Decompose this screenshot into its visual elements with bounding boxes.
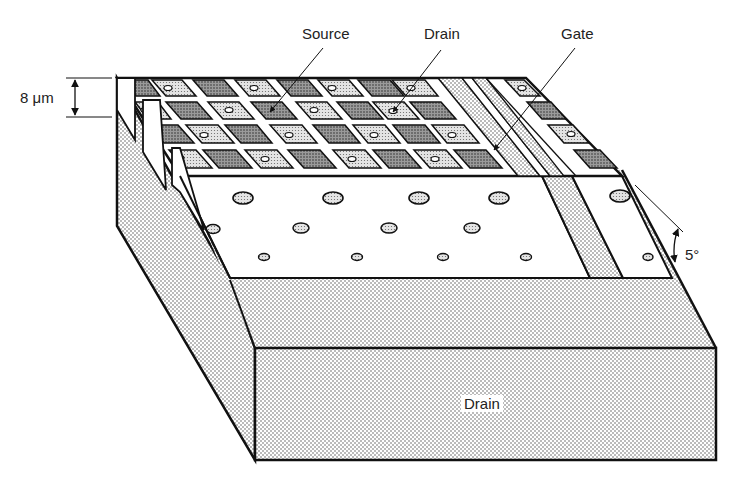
label-thickness: 8 μm (20, 89, 54, 106)
active-area-plate (180, 176, 672, 278)
mosfet-diagram (0, 0, 735, 482)
label-gate: Gate (561, 25, 594, 42)
label-source: Source (302, 25, 350, 42)
top-surface (117, 78, 622, 176)
thickness-dimension (66, 78, 112, 117)
label-drain-top: Drain (424, 25, 460, 42)
label-angle: 5° (685, 246, 699, 263)
label-drain-substrate: Drain (461, 395, 503, 412)
